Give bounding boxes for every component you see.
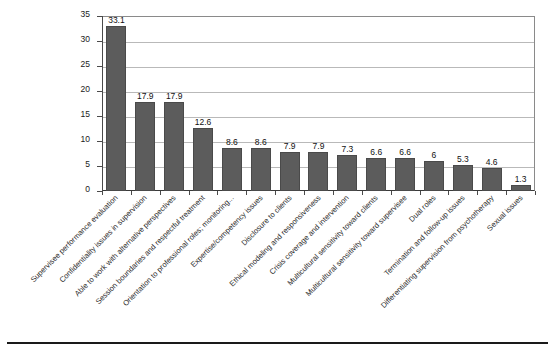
- bar-value-label: 6.6: [391, 148, 420, 157]
- x-axis-category-label: Session boundaries and respectful treatm…: [94, 194, 206, 306]
- y-axis-tick-label: 20: [81, 85, 90, 94]
- bar-value-label: 6.6: [362, 148, 391, 157]
- bar: [511, 185, 531, 192]
- y-axis-tick-label: 25: [81, 60, 90, 69]
- bar: [164, 102, 184, 192]
- bar: [308, 152, 328, 192]
- y-axis-tick-label: 5: [85, 160, 90, 169]
- x-axis-tick-mark: [333, 191, 334, 195]
- bar-value-label: 12.6: [189, 118, 218, 127]
- bar-value-label: 1.3: [506, 175, 535, 184]
- x-axis-tick-mark: [448, 191, 449, 195]
- bar-value-label: 7.9: [304, 142, 333, 151]
- bar-value-label: 8.6: [217, 138, 246, 147]
- x-axis-tick-mark: [217, 191, 218, 195]
- bar-slot: [275, 16, 304, 191]
- x-axis-tick-mark: [420, 191, 421, 195]
- bar-slot: [333, 16, 362, 191]
- bar: [482, 168, 502, 191]
- bar-chart-figure: 05101520253035 33.117.917.912.68.68.67.9…: [0, 0, 555, 359]
- bar: [106, 26, 126, 192]
- bar-slot: [102, 16, 131, 191]
- bar-value-label: 4.6: [477, 158, 506, 167]
- y-axis-tick-label: 15: [81, 110, 90, 119]
- bar: [280, 152, 300, 192]
- y-axis-tick-label: 0: [85, 185, 90, 194]
- bar: [193, 128, 213, 191]
- x-axis-tick-mark: [506, 191, 507, 195]
- x-axis-tick-mark: [131, 191, 132, 195]
- bar-slot: [131, 16, 160, 191]
- bar: [337, 155, 357, 192]
- bar-slot: [362, 16, 391, 191]
- bar-slot: [420, 16, 449, 191]
- x-axis-tick-mark: [275, 191, 276, 195]
- bar: [222, 148, 242, 191]
- y-axis-tick-label: 10: [81, 135, 90, 144]
- bar-value-label: 33.1: [102, 16, 131, 25]
- bar-slot: [506, 16, 535, 191]
- bottom-horizontal-rule: [7, 342, 548, 344]
- x-axis-tick-mark: [102, 191, 103, 195]
- y-axis-tick-label: 30: [81, 35, 90, 44]
- bar-slot: [391, 16, 420, 191]
- x-axis-tick-mark: [535, 191, 536, 195]
- x-axis-tick-mark: [362, 191, 363, 195]
- bar-slot: [160, 16, 189, 191]
- x-axis-tick-mark: [189, 191, 190, 195]
- bar: [135, 102, 155, 192]
- x-axis-tick-mark: [477, 191, 478, 195]
- x-axis-category-label: Orientation to professional roles; monit…: [122, 194, 236, 308]
- x-axis-tick-mark: [304, 191, 305, 195]
- bar-slot: [189, 16, 218, 191]
- bar-slot: [246, 16, 275, 191]
- bar: [424, 161, 444, 191]
- bar-value-label: 7.3: [333, 145, 362, 154]
- bar: [453, 165, 473, 192]
- bar-value-label: 8.6: [246, 138, 275, 147]
- bar: [251, 148, 271, 191]
- bar-slot: [448, 16, 477, 191]
- x-axis-tick-mark: [246, 191, 247, 195]
- bar: [395, 158, 415, 191]
- bar-value-label: 7.9: [275, 142, 304, 151]
- bar-slot: [304, 16, 333, 191]
- x-axis-tick-mark: [160, 191, 161, 195]
- y-axis-tick-label: 35: [81, 10, 90, 19]
- x-axis-tick-mark: [391, 191, 392, 195]
- bar-value-label: 17.9: [131, 92, 160, 101]
- bar-value-label: 5.3: [448, 155, 477, 164]
- bar-value-label: 17.9: [160, 92, 189, 101]
- bar-slot: [217, 16, 246, 191]
- bar-value-label: 6: [420, 151, 449, 160]
- bar: [366, 158, 386, 191]
